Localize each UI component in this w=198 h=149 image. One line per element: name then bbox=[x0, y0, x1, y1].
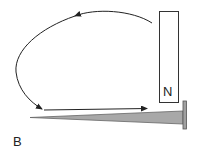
nail-head bbox=[183, 101, 187, 129]
nail bbox=[30, 101, 187, 129]
bar-magnet: N bbox=[160, 12, 179, 103]
field-line-curve bbox=[16, 11, 152, 109]
field-line-along-nail bbox=[44, 109, 147, 111]
north-pole-label: N bbox=[163, 84, 172, 99]
panel-label: B bbox=[13, 134, 22, 149]
nail-shaft bbox=[30, 111, 183, 124]
magnet-nail-diagram: N B bbox=[0, 0, 198, 149]
